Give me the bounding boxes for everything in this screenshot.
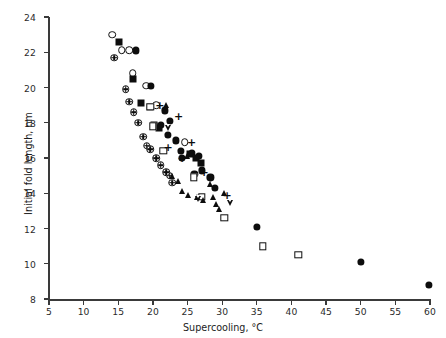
- x-tick: [118, 300, 119, 305]
- data-point-filled-square: [150, 123, 157, 130]
- data-point-filled-triangle: [200, 197, 206, 203]
- data-point-filled-triangle: [184, 153, 190, 159]
- y-tick-label: 22: [24, 47, 36, 58]
- x-tick: [152, 300, 153, 305]
- scatter-chart-figure: 51015202530354045505560 8101214161820222…: [0, 0, 446, 338]
- data-point-crossed-circle: [166, 172, 174, 180]
- y-tick: [44, 16, 49, 17]
- x-tick: [395, 300, 396, 305]
- data-point-open-circle: [142, 82, 150, 90]
- data-point-filled-triangle: [194, 194, 200, 200]
- data-point-filled-square: [151, 121, 158, 128]
- x-tick: [256, 300, 257, 305]
- data-point-open-square: [259, 242, 266, 249]
- x-axis-title: Supercooling, °C: [0, 322, 446, 333]
- data-point-crossed-circle: [162, 168, 170, 176]
- x-tick-label: 60: [424, 306, 436, 317]
- data-point-crossed-circle: [139, 133, 147, 141]
- data-point-crossed-circle: [130, 108, 138, 116]
- data-point-filled-circle: [165, 131, 172, 138]
- data-point-plus: +: [177, 153, 186, 164]
- data-point-crossed-circle: [122, 85, 130, 93]
- data-point-filled-square: [129, 75, 136, 82]
- data-point-filled-square: [192, 155, 199, 162]
- x-tick-label: 50: [355, 306, 367, 317]
- data-point-filled-circle: [207, 174, 214, 181]
- data-point-open-down-triangle: [195, 196, 201, 202]
- data-point-filled-circle: [211, 184, 218, 191]
- data-point-filled-triangle: [175, 178, 181, 184]
- data-point-crossed-circle: [135, 119, 143, 127]
- data-point-filled-square: [156, 125, 163, 132]
- data-point-filled-circle: [188, 149, 195, 156]
- data-point-crossed-circle: [143, 142, 151, 150]
- data-point-crossed-circle: [153, 154, 161, 162]
- data-point-plus: +: [155, 100, 164, 111]
- data-point-open-down-triangle: [227, 200, 233, 206]
- data-point-open-circle: [153, 101, 161, 109]
- x-tick-label: 15: [112, 306, 124, 317]
- y-axis-line: [48, 17, 50, 300]
- data-point-open-square: [295, 251, 302, 258]
- data-point-filled-circle: [161, 107, 168, 114]
- data-point-open-circle: [118, 47, 126, 55]
- data-point-open-circle: [108, 31, 116, 39]
- data-point-filled-circle: [195, 153, 202, 160]
- x-tick-label: 45: [320, 306, 332, 317]
- data-point-filled-triangle: [207, 181, 213, 187]
- data-point-filled-triangle: [213, 201, 219, 207]
- y-tick-label: 8: [30, 294, 36, 305]
- y-axis-title: Initial fold length, nm: [23, 84, 34, 244]
- x-tick: [48, 300, 49, 305]
- x-tick-label: 55: [389, 306, 401, 317]
- y-tick-label: 24: [24, 12, 36, 23]
- data-point-plus: +: [187, 137, 196, 148]
- data-point-crossed-circle: [169, 179, 177, 187]
- data-point-filled-triangle: [163, 102, 169, 108]
- data-point-filled-triangle: [179, 188, 185, 194]
- x-tick: [360, 300, 361, 305]
- data-point-crossed-circle: [126, 98, 134, 106]
- data-point-crossed-circle: [146, 145, 154, 153]
- data-point-open-circle: [129, 70, 137, 78]
- x-tick-label: 10: [78, 306, 90, 317]
- data-point-filled-circle: [198, 167, 205, 174]
- plot-area: +++++++: [0, 0, 446, 338]
- x-tick-label: 35: [251, 306, 263, 317]
- y-tick: [44, 157, 49, 158]
- data-point-filled-circle: [177, 147, 184, 154]
- data-point-open-square: [198, 193, 205, 200]
- y-tick: [44, 263, 49, 264]
- x-tick: [429, 300, 430, 305]
- data-point-open-square: [190, 174, 197, 181]
- data-point-filled-triangle: [169, 173, 175, 179]
- x-tick-label: 30: [216, 306, 228, 317]
- data-point-crossed-circle: [110, 54, 118, 62]
- data-point-filled-square: [197, 160, 204, 167]
- data-point-plus: +: [200, 167, 209, 178]
- data-point-filled-circle: [157, 121, 164, 128]
- data-point-open-square: [149, 123, 156, 130]
- data-point-open-square: [221, 214, 228, 221]
- y-tick: [44, 52, 49, 53]
- y-tick: [44, 298, 49, 299]
- y-tick: [44, 122, 49, 123]
- y-tick: [44, 87, 49, 88]
- y-tick: [44, 193, 49, 194]
- data-point-open-square: [146, 103, 153, 110]
- x-tick-label: 25: [182, 306, 194, 317]
- data-point-filled-circle: [425, 281, 432, 288]
- x-tick-label: 5: [46, 306, 52, 317]
- data-point-filled-circle: [172, 137, 179, 144]
- data-point-open-circle: [126, 47, 134, 55]
- data-point-crossed-circle: [157, 161, 165, 169]
- data-point-open-square: [160, 147, 167, 154]
- data-point-plus: +: [174, 110, 183, 121]
- data-point-filled-circle: [357, 258, 364, 265]
- data-point-open-circle: [181, 138, 189, 146]
- x-tick: [187, 300, 188, 305]
- data-point-filled-circle: [166, 117, 173, 124]
- data-point-plus: +: [164, 142, 173, 153]
- data-point-plus: +: [222, 190, 231, 201]
- data-point-filled-circle: [133, 47, 140, 54]
